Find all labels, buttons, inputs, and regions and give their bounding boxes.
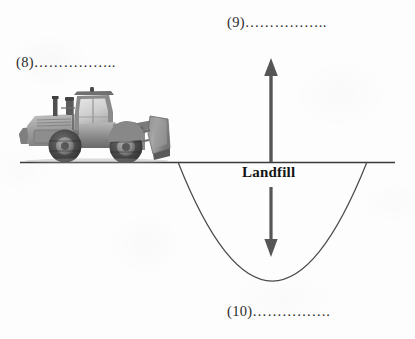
up-arrow bbox=[264, 58, 278, 162]
landfill-caption: Landfill bbox=[242, 164, 295, 181]
landfill-diagram-canvas: (8)…………….. (9)…………….. (10)……………. Landfil… bbox=[0, 0, 415, 339]
answer-blank-label-8: (8)…………….. bbox=[16, 54, 116, 71]
answer-blank-label-10: (10)……………. bbox=[227, 303, 330, 320]
diagram-vector-layer bbox=[0, 0, 415, 339]
answer-blank-label-9: (9)…………….. bbox=[227, 14, 327, 31]
bulldozer-image bbox=[17, 86, 174, 163]
down-arrow bbox=[264, 187, 277, 257]
